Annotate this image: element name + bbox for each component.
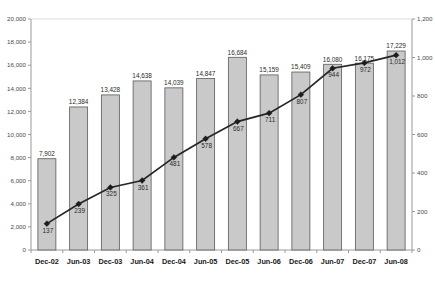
category-label: Jun-07 bbox=[321, 257, 345, 266]
bar bbox=[228, 57, 246, 250]
bar bbox=[38, 159, 56, 250]
bar-value-labels-group: 7,90212,38413,42814,63814,03914,84716,68… bbox=[39, 42, 406, 157]
left-axis-tick-label: 18,000 bbox=[7, 38, 26, 45]
line-value-label: 481 bbox=[170, 160, 181, 167]
line-value-label: 711 bbox=[265, 116, 276, 123]
category-label: Jun-08 bbox=[384, 257, 408, 266]
line-value-label: 807 bbox=[297, 98, 308, 105]
bar bbox=[197, 79, 215, 250]
left-axis-tick-label: 2,000 bbox=[11, 223, 27, 230]
bar bbox=[165, 88, 183, 250]
bar bbox=[101, 95, 119, 250]
left-axis-tick-label: 0 bbox=[23, 246, 27, 253]
line-value-label: 239 bbox=[74, 207, 85, 214]
chart-container: 02,0004,0006,0008,00010,00012,00014,0001… bbox=[0, 0, 435, 287]
line-value-label: 667 bbox=[233, 125, 244, 132]
bar-value-label: 16,080 bbox=[323, 56, 343, 63]
left-axis-tick-label: 14,000 bbox=[7, 85, 26, 92]
bar bbox=[70, 107, 88, 250]
bar-value-label: 14,039 bbox=[164, 79, 184, 86]
bar bbox=[260, 75, 278, 250]
right-axis-tick-label: 600 bbox=[417, 131, 428, 138]
category-labels-group: Dec-02Jun-03Dec-03Jun-04Dec-04Jun-05Dec-… bbox=[31, 250, 412, 266]
bar bbox=[133, 81, 151, 250]
bar-value-label: 15,409 bbox=[291, 63, 311, 70]
line-value-label: 361 bbox=[138, 184, 149, 191]
category-label: Dec-06 bbox=[289, 257, 313, 266]
right-axis-tick-label: 800 bbox=[417, 92, 428, 99]
line-series-path bbox=[47, 55, 396, 223]
line-value-label: 578 bbox=[201, 142, 212, 149]
bar bbox=[387, 51, 405, 250]
category-label: Dec-07 bbox=[352, 257, 376, 266]
category-label: Dec-04 bbox=[162, 257, 187, 266]
bar bbox=[355, 63, 373, 250]
category-label: Jun-03 bbox=[67, 257, 91, 266]
right-axis-tick-label: 200 bbox=[417, 208, 428, 215]
right-axis-tick-label: 1,200 bbox=[417, 15, 433, 22]
left-axis-tick-label: 10,000 bbox=[7, 131, 26, 138]
category-label: Jun-04 bbox=[130, 257, 154, 266]
left-axis-tick-label: 8,000 bbox=[11, 154, 27, 161]
bar-value-label: 17,229 bbox=[386, 42, 406, 49]
left-axis-tick-label: 12,000 bbox=[7, 108, 26, 115]
line-series-group bbox=[44, 52, 399, 226]
line-value-label: 972 bbox=[360, 66, 371, 73]
category-label: Jun-05 bbox=[194, 257, 218, 266]
line-value-labels-group: 1372393253614815786677118079449721,012 bbox=[43, 58, 406, 233]
line-value-label: 325 bbox=[106, 190, 117, 197]
bar-value-label: 13,428 bbox=[101, 86, 121, 93]
left-axis-tick-label: 6,000 bbox=[11, 177, 27, 184]
bars-group bbox=[38, 51, 405, 250]
category-label: Dec-05 bbox=[225, 257, 249, 266]
line-value-label: 137 bbox=[43, 227, 54, 234]
bar-value-label: 14,847 bbox=[196, 70, 216, 77]
category-label: Jun-06 bbox=[257, 257, 281, 266]
category-label: Dec-02 bbox=[35, 257, 59, 266]
bar-value-label: 7,902 bbox=[39, 150, 55, 157]
bar bbox=[324, 64, 342, 250]
right-axis-tick-label: 400 bbox=[417, 169, 428, 176]
left-axis-tick-label: 20,000 bbox=[7, 15, 26, 22]
right-axis-group: 02004006008001,0001,200 bbox=[412, 15, 433, 253]
category-label: Dec-03 bbox=[98, 257, 122, 266]
line-value-label: 944 bbox=[328, 71, 339, 78]
bar-value-label: 14,638 bbox=[132, 72, 152, 79]
left-axis-tick-label: 4,000 bbox=[11, 200, 27, 207]
bar-value-label: 15,159 bbox=[259, 66, 279, 73]
line-value-label: 1,012 bbox=[389, 58, 405, 65]
left-axis-tick-label: 16,000 bbox=[7, 61, 26, 68]
left-axis-group: 02,0004,0006,0008,00010,00012,00014,0001… bbox=[7, 15, 31, 253]
bar-value-label: 16,684 bbox=[228, 49, 248, 56]
right-axis-tick-label: 1,000 bbox=[417, 54, 433, 61]
bar-value-label: 12,384 bbox=[69, 98, 89, 105]
combo-chart: 02,0004,0006,0008,00010,00012,00014,0001… bbox=[0, 0, 435, 287]
right-axis-tick-label: 0 bbox=[417, 246, 421, 253]
